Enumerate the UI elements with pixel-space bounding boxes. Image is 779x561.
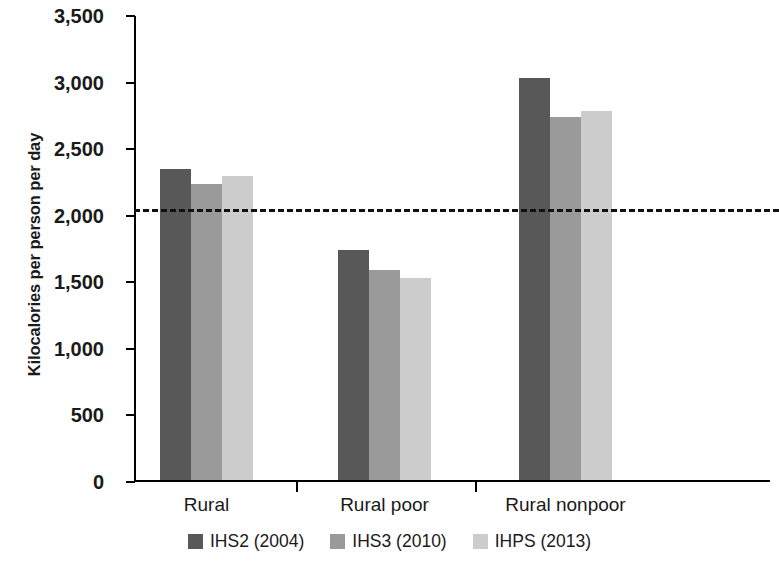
bar [160,169,191,480]
y-tick-label: 0 [20,472,104,492]
bar-chart: Kilocalories per person per day 05001,00… [0,0,779,561]
bar [222,176,253,480]
bar [191,184,222,480]
x-category-label: Rural [184,494,229,516]
legend-swatch [330,534,345,549]
y-tick-label: 2,500 [20,139,104,159]
x-tick-mark [296,482,298,492]
legend-label: IHS3 (2010) [352,531,446,552]
y-tick-mark [126,215,135,217]
chart-legend: IHS2 (2004)IHS3 (2010)IHPS (2013) [0,531,779,552]
legend-item: IHPS (2013) [473,531,591,552]
bar [581,111,612,480]
y-tick-label: 500 [20,405,104,425]
y-tick-label: 1,000 [20,339,104,359]
legend-item: IHS2 (2004) [188,531,304,552]
bar [519,78,550,480]
bar [369,270,400,480]
y-tick-mark [126,15,135,17]
reference-line [134,209,779,212]
x-category-label: Rural nonpoor [505,494,625,516]
y-tick-label: 1,500 [20,272,104,292]
y-tick-label: 3,500 [20,6,104,26]
y-tick-mark [126,281,135,283]
y-tick-mark [126,82,135,84]
y-tick-label: 2,000 [20,206,104,226]
y-axis-line [134,16,136,482]
legend-swatch [473,534,488,549]
y-tick-mark [126,148,135,150]
bar [400,278,431,480]
plot-area [134,16,770,482]
legend-label: IHS2 (2004) [210,531,304,552]
y-tick-mark [126,414,135,416]
y-tick-label: 3,000 [20,73,104,93]
y-tick-mark [126,348,135,350]
x-category-label: Rural poor [340,494,429,516]
y-tick-mark [126,481,135,483]
legend-label: IHPS (2013) [495,531,591,552]
legend-swatch [188,534,203,549]
x-tick-mark [475,482,477,492]
bar [338,250,369,480]
bar [550,117,581,480]
x-axis-line [134,480,770,482]
y-axis-tick-labels: 05001,0001,5002,0002,5003,0003,500 [20,0,104,561]
legend-item: IHS3 (2010) [330,531,446,552]
